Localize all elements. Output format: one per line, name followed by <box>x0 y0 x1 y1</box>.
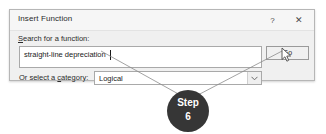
step-badge: Step 6 <box>167 90 209 132</box>
mouse-pointer-icon <box>281 47 293 63</box>
insert-function-dialog: Insert Function ? ✕ Search for a functio… <box>9 9 315 81</box>
search-input-value: straight-line depreciation <box>24 50 106 59</box>
dialog-title-bar: Insert Function ? ✕ <box>10 10 314 31</box>
category-label-prefix: Or select a <box>19 73 57 82</box>
text-caret <box>110 50 111 60</box>
category-dropdown[interactable]: Logical <box>94 71 262 85</box>
help-icon[interactable]: ? <box>262 12 283 29</box>
select-category-label: Or select a category: <box>19 73 88 82</box>
search-input[interactable]: straight-line depreciation <box>19 46 262 68</box>
step-badge-number: 6 <box>167 111 209 122</box>
search-label-text: earch for a function: <box>23 34 89 43</box>
dialog-body: Search for a function: straight-line dep… <box>10 31 314 80</box>
search-for-function-label: Search for a function: <box>18 34 89 43</box>
step-badge-word: Step <box>167 97 209 108</box>
dialog-title: Insert Function <box>18 14 72 23</box>
chevron-down-icon[interactable] <box>247 72 261 84</box>
close-icon[interactable]: ✕ <box>288 12 309 29</box>
category-dropdown-value: Logical <box>99 74 123 83</box>
category-label-suffix: ategory: <box>61 73 88 82</box>
